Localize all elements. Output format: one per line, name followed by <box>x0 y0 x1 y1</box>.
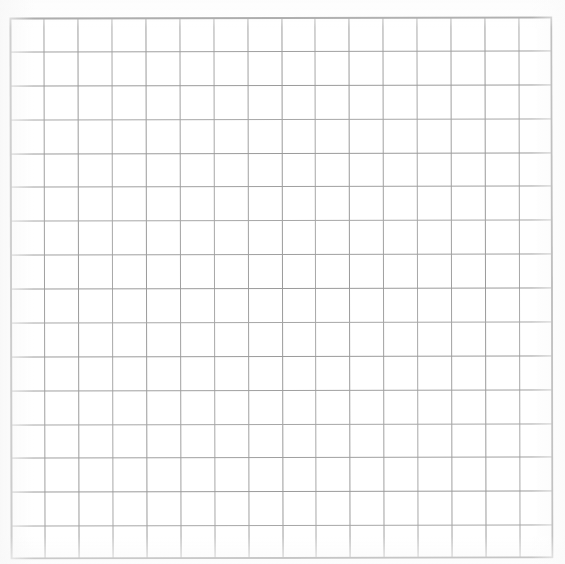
scan-skew-layer <box>9 16 553 559</box>
grid-canvas <box>9 16 553 559</box>
graph-paper-grid <box>10 17 553 559</box>
page-root <box>0 0 565 564</box>
